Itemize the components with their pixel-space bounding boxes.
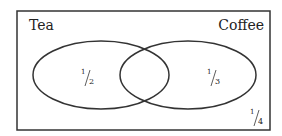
svg-text:4: 4	[258, 117, 263, 126]
tea-fraction: 1 2	[81, 68, 94, 86]
outside-fraction: 1 4	[250, 108, 263, 126]
tea-ellipse	[33, 41, 169, 109]
svg-text:1: 1	[250, 108, 254, 116]
svg-text:1: 1	[81, 68, 85, 76]
svg-text:2: 2	[89, 77, 94, 86]
tea-label: Tea	[29, 17, 54, 33]
svg-text:3: 3	[215, 77, 220, 86]
coffee-ellipse	[120, 41, 256, 109]
venn-diagram: Tea Coffee 1 2 1 3 1 4	[0, 0, 282, 136]
coffee-fraction: 1 3	[207, 68, 220, 86]
svg-text:1: 1	[207, 68, 211, 76]
coffee-label: Coffee	[218, 17, 264, 33]
